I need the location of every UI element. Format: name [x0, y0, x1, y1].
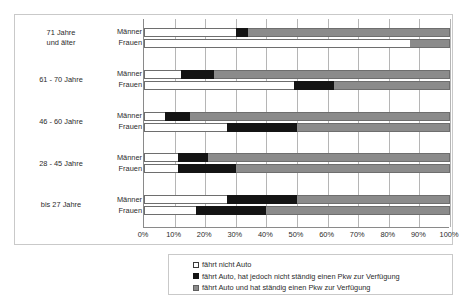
category-label: 46 - 60 Jahre [16, 117, 106, 127]
stacked-bar-chart: 71 Jahreund älter61 - 70 Jahre46 - 60 Ja… [0, 0, 469, 308]
bar-segment-occasional [165, 112, 189, 121]
x-axis-tick-label: 20% [197, 230, 212, 240]
chart-legend: fährt nicht Autofährt Auto, hat jedoch n… [168, 254, 453, 295]
category-label-line: 28 - 45 Jahre [16, 159, 106, 169]
bar-row [144, 206, 449, 215]
subgroup-label-maenner: Männer [117, 196, 142, 204]
bar-segment-occasional [178, 153, 209, 162]
x-axis-tick-label: 80% [380, 230, 395, 240]
bar-segment-occasional [227, 195, 297, 204]
bar-row [144, 195, 449, 204]
bar-segment-permanent [410, 39, 450, 48]
bar-segment-none [144, 164, 178, 173]
bar-segment-permanent [297, 123, 450, 132]
x-axis-tick-label: 60% [319, 230, 334, 240]
subgroup-label-frauen: Frauen [119, 165, 142, 173]
bars-layer [144, 19, 449, 227]
legend-item[interactable]: fährt Auto und hat ständig einen Pkw zur… [193, 282, 452, 293]
subgroup-label-frauen: Frauen [119, 207, 142, 215]
bar-segment-occasional [294, 81, 334, 90]
category-label: bis 27 Jahre [16, 200, 106, 210]
bar-row [144, 70, 449, 79]
subgroup-label-maenner: Männer [117, 112, 142, 120]
bar-row [144, 112, 449, 121]
x-axis-tick-labels: 0%10%20%30%40%50%60%70%80%90%100% [143, 230, 449, 242]
gridline [450, 19, 451, 227]
bar-segment-none [144, 39, 410, 48]
bar-segment-none [144, 81, 294, 90]
bar-segment-permanent [190, 112, 450, 121]
bar-segment-permanent [236, 164, 450, 173]
x-axis-tick-label: 30% [227, 230, 242, 240]
bar-segment-none [144, 206, 196, 215]
x-axis-tick-label: 40% [258, 230, 273, 240]
category-label-line: 71 Jahre [16, 28, 106, 38]
bar-segment-none [144, 28, 236, 37]
category-label-line: 61 - 70 Jahre [16, 75, 106, 85]
bar-row [144, 28, 449, 37]
bar-segment-none [144, 195, 227, 204]
bar-segment-occasional [196, 206, 266, 215]
bar-segment-occasional [227, 123, 297, 132]
category-label: 28 - 45 Jahre [16, 159, 106, 169]
bar-segment-occasional [178, 164, 236, 173]
bar-segment-permanent [208, 153, 450, 162]
subgroup-label-frauen: Frauen [119, 81, 142, 89]
category-label: 61 - 70 Jahre [16, 75, 106, 85]
bar-segment-none [144, 153, 178, 162]
category-label-line: bis 27 Jahre [16, 200, 106, 210]
bar-row [144, 153, 449, 162]
x-axis-tick-label: 70% [350, 230, 365, 240]
legend-label: fährt Auto, hat jedoch nicht ständig ein… [202, 272, 400, 281]
legend-swatch-icon [193, 262, 199, 268]
bar-segment-permanent [297, 195, 450, 204]
subgroup-label-maenner: Männer [117, 70, 142, 78]
subgroup-label-maenner: Männer [117, 154, 142, 162]
bar-row [144, 39, 449, 48]
bar-segment-none [144, 112, 165, 121]
bar-segment-none [144, 70, 181, 79]
subgroup-label-maenner: Männer [117, 28, 142, 36]
legend-swatch-icon [193, 273, 199, 279]
x-axis-tick-label: 10% [166, 230, 181, 240]
bar-segment-permanent [248, 28, 450, 37]
plot-area [143, 19, 449, 228]
x-axis-tick-label: 50% [289, 230, 304, 240]
category-label-line: und älter [16, 38, 106, 48]
legend-item[interactable]: fährt Auto, hat jedoch nicht ständig ein… [193, 271, 452, 282]
bar-segment-occasional [181, 70, 215, 79]
bar-row [144, 81, 449, 90]
bar-segment-permanent [266, 206, 450, 215]
bar-row [144, 164, 449, 173]
legend-swatch-icon [193, 285, 199, 291]
bar-segment-permanent [214, 70, 450, 79]
legend-label: fährt Auto und hat ständig einen Pkw zur… [202, 283, 370, 292]
legend-label: fährt nicht Auto [202, 260, 251, 269]
x-axis-tick-label: 0% [138, 230, 149, 240]
subgroup-label-frauen: Frauen [119, 39, 142, 47]
category-label: 71 Jahreund älter [16, 28, 106, 47]
category-label-line: 46 - 60 Jahre [16, 117, 106, 127]
bar-segment-none [144, 123, 227, 132]
bar-segment-permanent [334, 81, 450, 90]
subgroup-label-frauen: Frauen [119, 123, 142, 131]
bar-row [144, 123, 449, 132]
bar-segment-occasional [236, 28, 248, 37]
legend-item[interactable]: fährt nicht Auto [193, 259, 452, 270]
x-axis-tick-label: 90% [411, 230, 426, 240]
subgroup-axis-labels: MännerFrauenMännerFrauenMännerFrauenMänn… [104, 15, 144, 244]
x-axis-tick-label: 100% [440, 230, 459, 240]
category-axis-labels: 71 Jahreund älter61 - 70 Jahre46 - 60 Ja… [16, 15, 106, 244]
